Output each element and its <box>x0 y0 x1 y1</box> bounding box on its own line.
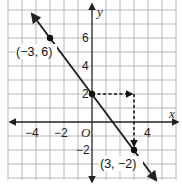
x-tick-label: 4 <box>144 126 151 140</box>
point-label-a: (−3, 6) <box>16 45 52 59</box>
origin-label: O <box>81 125 91 140</box>
x-tick-label: −4 <box>25 126 39 140</box>
point-0-2 <box>89 91 95 97</box>
x-axis-label: x <box>168 106 175 121</box>
y-tick-label: 6 <box>82 31 89 45</box>
point-3-neg2 <box>131 147 137 153</box>
y-axis-label: y <box>95 4 103 19</box>
point-label-b: (3, −2) <box>100 157 136 171</box>
y-tick-label: −2 <box>76 143 90 157</box>
y-tick-label: 4 <box>82 59 89 73</box>
point-neg3-6 <box>47 35 53 41</box>
x-tick-label: −2 <box>54 126 68 140</box>
coordinate-plane: x y O −4 −2 4 6 4 2 −2 (−3, 6) (3, −2) <box>0 0 182 186</box>
